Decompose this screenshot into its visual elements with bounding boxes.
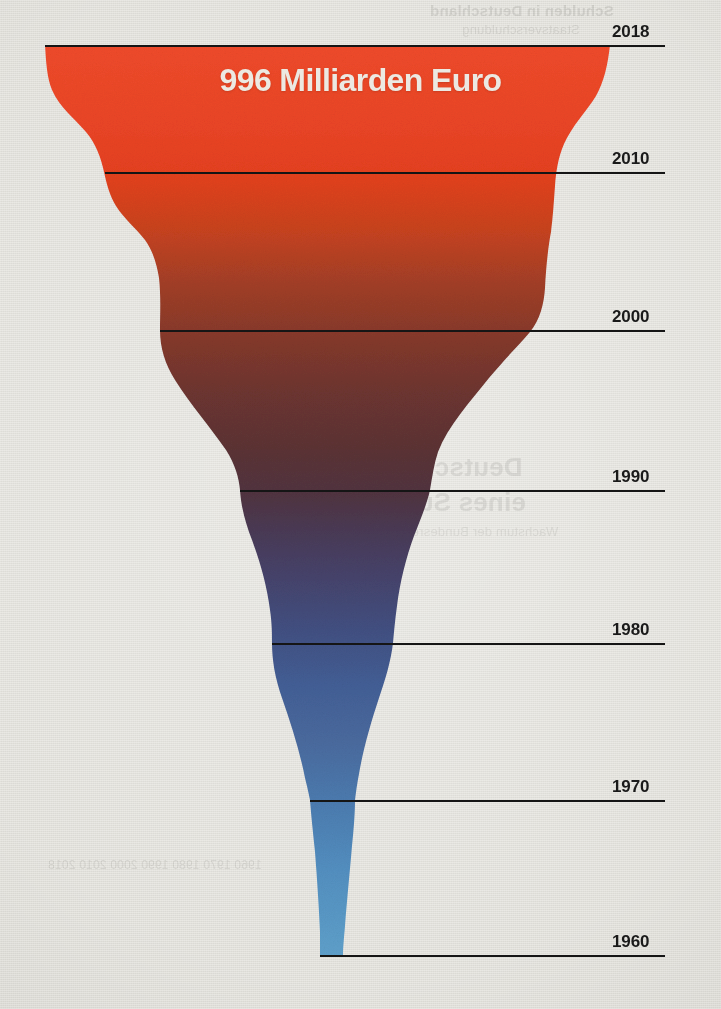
funnel-area: [45, 45, 610, 955]
axis-rule-1980: [272, 643, 665, 645]
axis-rule-1970: [310, 800, 665, 802]
axis-rule-2018: [45, 45, 665, 47]
axis-label-2018: 2018: [612, 23, 649, 40]
axis-label-1960: 1960: [612, 933, 649, 950]
debt-funnel-chart: 996 Milliarden Euro 2018 2010 2000 1990 …: [0, 0, 721, 1009]
infographic-page: Schulden in Deutschland Staatsverschuldu…: [0, 0, 721, 1009]
axis-label-1990: 1990: [612, 468, 649, 485]
axis-label-1970: 1970: [612, 778, 649, 795]
axis-rule-2010: [105, 172, 665, 174]
axis-rule-2000: [160, 330, 665, 332]
axis-label-2010: 2010: [612, 150, 649, 167]
axis-rule-1960: [320, 955, 665, 957]
axis-label-2000: 2000: [612, 308, 649, 325]
axis-label-1980: 1980: [612, 621, 649, 638]
axis-rule-1990: [240, 490, 665, 492]
